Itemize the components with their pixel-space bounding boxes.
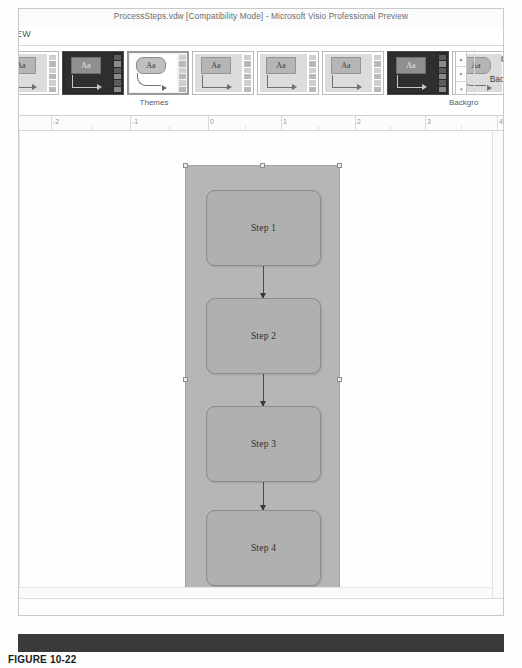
color-swatch	[179, 68, 186, 73]
step-shape-1[interactable]: Step 1	[206, 190, 321, 266]
chevron-down-icon[interactable]: ▾	[477, 85, 504, 91]
theme-thumbnail-6[interactable]: Aa	[322, 51, 384, 95]
ruler-tick-major	[497, 116, 498, 131]
theme-thumbnail-2[interactable]: Aa	[62, 51, 124, 95]
theme-color-swatches	[374, 54, 381, 92]
theme-preview: Aa	[195, 54, 242, 92]
ribbon-group-divider	[474, 50, 475, 96]
connector-arrow-3[interactable]	[263, 482, 264, 510]
theme-preview: Aa	[390, 54, 437, 92]
ruler-tick-major	[208, 116, 209, 131]
step-label: Step 1	[251, 223, 276, 233]
color-swatch	[374, 80, 381, 85]
resize-handle-top-center[interactable]	[260, 163, 265, 168]
ruler-tick-major	[281, 116, 282, 131]
color-swatch	[244, 55, 251, 60]
color-swatch	[439, 80, 446, 85]
color-swatch	[49, 80, 56, 85]
ruler-tick-label: 3	[427, 118, 431, 125]
vertical-scrollbar[interactable]	[492, 131, 503, 597]
color-swatch	[114, 74, 121, 79]
step-label: Step 2	[251, 331, 276, 341]
drawing-page[interactable]: Step 1Step 2Step 3Step 4	[20, 131, 492, 601]
color-swatch	[439, 74, 446, 79]
background-button-label[interactable]: Background	[477, 74, 504, 84]
step-label: Step 4	[251, 543, 276, 553]
resize-handle-middle-left[interactable]	[183, 377, 188, 382]
theme-thumbnail-5[interactable]: Aa	[257, 51, 319, 95]
gallery-scroll-down-button[interactable]: ▼	[456, 67, 466, 82]
color-swatch	[114, 61, 121, 66]
theme-sample-shape: Aa	[266, 57, 296, 74]
color-swatch	[374, 55, 381, 60]
color-swatch	[309, 87, 316, 92]
color-swatch	[374, 61, 381, 66]
step-shape-4[interactable]: Step 4	[206, 510, 321, 586]
theme-sample-shape: Aa	[71, 57, 101, 74]
ruler-tick-label: 0	[210, 118, 214, 125]
color-swatch	[244, 68, 251, 73]
gallery-more-button[interactable]: ▾	[456, 82, 466, 96]
group-label-background: Backgro	[449, 98, 504, 107]
ruler-tick-major	[130, 116, 131, 131]
visio-application-window: ProcessSteps.vdw [Compatibility Mode] - …	[18, 8, 504, 616]
horizontal-ruler: -2-101234	[19, 116, 503, 131]
theme-sample-shape: Aa	[331, 57, 361, 74]
themes-gallery[interactable]: AaAaAaAaAaAaAaAa	[18, 51, 504, 97]
resize-handle-top-right[interactable]	[337, 163, 342, 168]
process-container-shape[interactable]: Step 1Step 2Step 3Step 4	[185, 165, 340, 594]
figure-caption: FIGURE 10-22	[8, 654, 77, 665]
color-swatch	[244, 80, 251, 85]
color-swatch	[114, 87, 121, 92]
theme-preview: Aa	[65, 54, 112, 92]
connector-arrow-2[interactable]	[263, 374, 264, 406]
color-swatch	[309, 55, 316, 60]
theme-color-swatches	[179, 54, 186, 92]
theme-thumbnail-4[interactable]: Aa	[192, 51, 254, 95]
group-label-themes: Themes	[74, 98, 234, 107]
connector-arrow-1[interactable]	[263, 266, 264, 298]
color-swatch	[49, 68, 56, 73]
ruler-tick-major	[355, 116, 356, 131]
resize-handle-middle-right[interactable]	[337, 377, 342, 382]
theme-color-swatches	[309, 54, 316, 92]
color-swatch	[309, 61, 316, 66]
color-swatch	[374, 74, 381, 79]
color-swatch	[179, 55, 186, 60]
theme-thumbnail-7[interactable]: Aa	[387, 51, 449, 95]
gallery-scroll-up-button[interactable]: ▲	[456, 52, 466, 67]
color-swatch	[114, 80, 121, 85]
theme-sample-connector	[397, 75, 423, 88]
ribbon: AaAaAaAaAaAaAaAa ▲ ▼ ▾ Themes Background…	[19, 46, 503, 116]
color-swatch	[244, 74, 251, 79]
resize-handle-top-left[interactable]	[183, 163, 188, 168]
ruler-tick-label: -1	[132, 118, 138, 125]
theme-color-swatches	[439, 54, 446, 92]
ribbon-tab-strip: IEW	[19, 26, 503, 46]
ruler-tick-major	[425, 116, 426, 131]
tab-view[interactable]: IEW	[18, 29, 47, 39]
horizontal-scrollbar[interactable]	[19, 587, 492, 597]
ruler-tick-label: 2	[357, 118, 361, 125]
theme-preview: Aa	[260, 54, 307, 92]
title-bar: ProcessSteps.vdw [Compatibility Mode] - …	[19, 9, 503, 26]
color-swatch	[179, 61, 186, 66]
theme-thumbnail-3[interactable]: Aa	[127, 51, 189, 95]
theme-sample-shape: Aa	[201, 57, 231, 74]
color-swatch	[374, 68, 381, 73]
theme-preview: Aa	[18, 54, 47, 92]
step-shape-3[interactable]: Step 3	[206, 406, 321, 482]
step-shape-2[interactable]: Step 2	[206, 298, 321, 374]
ruler-tick-label: 4	[499, 118, 503, 125]
color-swatch	[114, 55, 121, 60]
color-swatch	[179, 80, 186, 85]
theme-thumbnail-1[interactable]: Aa	[18, 51, 59, 95]
background-page-icon	[501, 51, 504, 73]
theme-color-swatches	[244, 54, 251, 92]
theme-sample-connector	[332, 75, 358, 88]
color-swatch	[49, 55, 56, 60]
theme-sample-connector	[202, 75, 228, 88]
themes-gallery-scrollbar[interactable]: ▲ ▼ ▾	[455, 51, 467, 95]
ruler-tick-label: 1	[283, 118, 287, 125]
drawing-canvas[interactable]: Step 1Step 2Step 3Step 4	[19, 131, 503, 615]
